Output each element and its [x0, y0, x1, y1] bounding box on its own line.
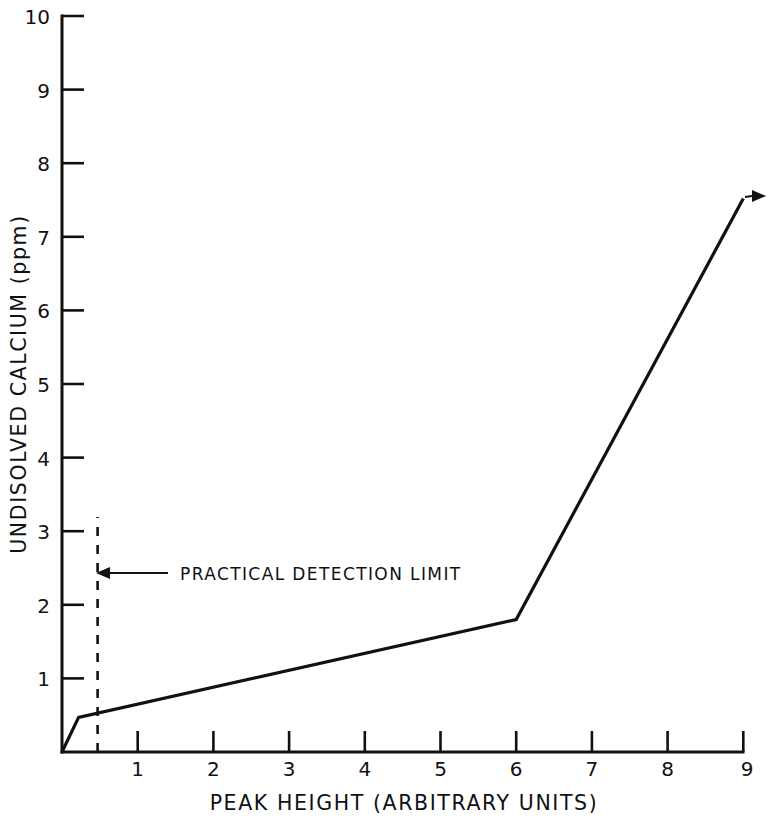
practical-detection-limit-label: PRACTICAL DETECTION LIMIT	[180, 564, 462, 584]
y-tick-label-9: 9	[37, 79, 50, 103]
y-tick-label-1: 1	[37, 667, 50, 691]
y-axis-ticks	[62, 16, 84, 678]
calibration-curve	[62, 199, 743, 753]
curve-end-arrow-icon	[745, 190, 766, 202]
x-tick-label-6: 6	[510, 757, 523, 781]
x-tick-label-1: 1	[131, 757, 144, 781]
x-tick-label-4: 4	[358, 757, 371, 781]
y-tick-label-5: 5	[37, 373, 50, 397]
chart-figure: 10 9 8 7 6 5 4 3 2 1 1 2 3 4 5 6 7 8 9	[0, 0, 766, 818]
y-tick-label-3: 3	[37, 520, 50, 544]
y-tick-label-6: 6	[37, 299, 50, 323]
x-tick-label-2: 2	[207, 757, 220, 781]
x-tick-label-8: 8	[661, 757, 674, 781]
x-tick-label-5: 5	[434, 757, 447, 781]
x-axis-title: PEAK HEIGHT (ARBITRARY UNITS)	[210, 791, 599, 815]
y-tick-label-10: 10	[25, 5, 50, 29]
y-axis-title: UNDISOLVED CALCIUM (ppm)	[7, 214, 31, 553]
practical-detection-limit-arrow-icon	[96, 567, 168, 579]
y-tick-label-8: 8	[37, 152, 50, 176]
x-tick-label-7: 7	[586, 757, 599, 781]
chart-canvas: 10 9 8 7 6 5 4 3 2 1 1 2 3 4 5 6 7 8 9	[0, 0, 766, 818]
x-tick-label-3: 3	[283, 757, 296, 781]
y-tick-label-4: 4	[37, 447, 50, 471]
x-tick-labels: 1 2 3 4 5 6 7 8 9	[131, 757, 753, 781]
y-tick-label-7: 7	[37, 226, 50, 250]
y-tick-label-2: 2	[37, 594, 50, 618]
x-tick-label-9: 9	[741, 757, 754, 781]
x-axis-ticks	[138, 731, 744, 752]
